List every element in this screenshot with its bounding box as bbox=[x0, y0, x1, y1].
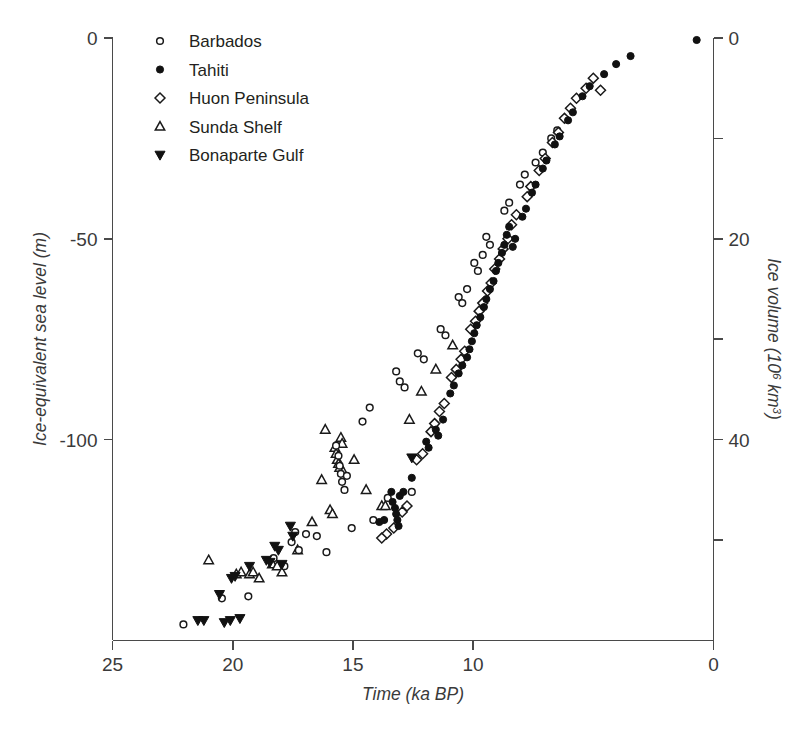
legend-item-tahiti: Tahiti bbox=[156, 61, 228, 80]
marker-circle-filled bbox=[522, 205, 529, 212]
series-barbados bbox=[180, 127, 561, 628]
x-axis-title: Time (ka BP) bbox=[362, 684, 464, 704]
marker-circle-open bbox=[366, 404, 373, 411]
marker-circle-open bbox=[408, 489, 415, 496]
marker-circle-filled bbox=[501, 241, 508, 248]
marker-circle-open bbox=[483, 233, 490, 240]
x-tick-label: 15 bbox=[342, 654, 363, 675]
marker-triangle-up-open bbox=[317, 475, 326, 484]
marker-circle-open bbox=[479, 252, 486, 259]
marker-circle-open bbox=[333, 442, 340, 449]
legend-item-barbados: Barbados bbox=[157, 32, 262, 51]
x-tick-label: 25 bbox=[102, 654, 123, 675]
marker-circle-open bbox=[464, 286, 471, 293]
chart-legend: BarbadosTahitiHuon PeninsulaSunda ShelfB… bbox=[155, 32, 310, 165]
y-right-tick-label: 20 bbox=[729, 229, 750, 250]
marker-circle-open bbox=[521, 171, 528, 178]
legend-item-label: Huon Peninsula bbox=[189, 89, 310, 108]
y-right-axis-title: Ice volume (106 km3) bbox=[764, 258, 784, 420]
marker-circle-open bbox=[348, 525, 355, 532]
marker-circle-open bbox=[157, 38, 164, 45]
marker-circle-filled bbox=[439, 416, 446, 423]
marker-diamond-open bbox=[155, 93, 165, 103]
x-axis-ticks: 252015100 bbox=[102, 641, 719, 675]
marker-circle-filled bbox=[459, 362, 466, 369]
marker-circle-filled bbox=[613, 61, 620, 68]
marker-diamond-open bbox=[588, 73, 598, 83]
marker-circle-filled bbox=[519, 213, 526, 220]
marker-triangle-down-filled bbox=[235, 615, 245, 624]
marker-circle-filled bbox=[477, 314, 484, 321]
marker-circle-filled bbox=[450, 382, 457, 389]
marker-circle-open bbox=[442, 332, 449, 339]
marker-circle-filled bbox=[471, 330, 478, 337]
series-huon-peninsula bbox=[377, 73, 606, 543]
marker-circle-open bbox=[475, 268, 482, 275]
marker-circle-open bbox=[323, 549, 330, 556]
marker-circle-filled bbox=[551, 141, 558, 148]
marker-circle-open bbox=[303, 531, 310, 538]
marker-circle-filled bbox=[556, 133, 563, 140]
marker-circle-filled bbox=[381, 516, 388, 523]
marker-circle-filled bbox=[490, 277, 497, 284]
marker-circle-open bbox=[359, 418, 366, 425]
marker-circle-open bbox=[459, 300, 466, 307]
x-tick-label: 10 bbox=[463, 654, 484, 675]
marker-circle-filled bbox=[498, 249, 505, 256]
marker-circle-filled bbox=[506, 223, 513, 230]
marker-circle-open bbox=[336, 462, 343, 469]
marker-circle-filled bbox=[528, 189, 535, 196]
marker-triangle-up-open bbox=[448, 340, 457, 349]
marker-circle-open bbox=[335, 452, 342, 459]
marker-circle-filled bbox=[586, 83, 593, 90]
marker-circle-filled bbox=[400, 488, 407, 495]
marker-circle-open bbox=[245, 593, 252, 600]
marker-circle-open bbox=[393, 368, 400, 375]
chart-canvas: 252015100 0-50-100 02040 Time (ka BP) Ic… bbox=[0, 0, 796, 729]
marker-circle-filled bbox=[601, 71, 608, 78]
marker-circle-filled bbox=[492, 267, 499, 274]
y-left-tick-label: -100 bbox=[59, 430, 97, 451]
marker-circle-open bbox=[532, 159, 539, 166]
marker-circle-filled bbox=[156, 66, 163, 73]
legend-item-bonaparte-gulf: Bonaparte Gulf bbox=[155, 146, 304, 165]
marker-circle-open bbox=[313, 533, 320, 540]
marker-circle-open bbox=[339, 478, 346, 485]
marker-circle-open bbox=[341, 487, 348, 494]
legend-item-label: Bonaparte Gulf bbox=[189, 146, 304, 165]
marker-circle-filled bbox=[466, 346, 473, 353]
marker-triangle-up-open bbox=[405, 415, 414, 424]
marker-circle-filled bbox=[464, 354, 471, 361]
marker-circle-filled bbox=[512, 235, 519, 242]
legend-item-huon-peninsula: Huon Peninsula bbox=[155, 89, 310, 108]
marker-triangle-up-open bbox=[321, 425, 330, 434]
marker-circle-filled bbox=[564, 117, 571, 124]
marker-triangle-up-open bbox=[417, 386, 426, 395]
marker-circle-open bbox=[487, 242, 494, 249]
marker-circle-filled bbox=[425, 444, 432, 451]
marker-circle-open bbox=[437, 326, 444, 333]
marker-triangle-up-open bbox=[349, 455, 358, 464]
marker-circle-filled bbox=[435, 432, 442, 439]
legend-item-label: Barbados bbox=[189, 32, 262, 51]
sea-level-chart-figure: 252015100 0-50-100 02040 Time (ka BP) Ic… bbox=[0, 0, 796, 729]
y-left-axis-title: Ice-equivalent sea level (m) bbox=[30, 232, 50, 446]
marker-circle-open bbox=[506, 199, 513, 206]
y-left-tick-label: -50 bbox=[70, 229, 97, 250]
legend-item-sunda-shelf: Sunda Shelf bbox=[155, 118, 282, 137]
marker-circle-filled bbox=[480, 304, 487, 311]
y-right-tick-label: 0 bbox=[729, 28, 740, 49]
marker-circle-filled bbox=[532, 181, 539, 188]
y-left-axis-ticks: 0-50-100 bbox=[59, 28, 112, 451]
marker-circle-filled bbox=[569, 109, 576, 116]
x-tick-label: 20 bbox=[222, 654, 243, 675]
marker-circle-open bbox=[401, 384, 408, 391]
marker-circle-filled bbox=[627, 53, 634, 60]
marker-circle-open bbox=[295, 547, 302, 554]
marker-circle-filled bbox=[509, 243, 516, 250]
marker-diamond-open bbox=[596, 85, 606, 95]
marker-triangle-up-open bbox=[307, 517, 316, 526]
marker-circle-open bbox=[420, 356, 427, 363]
marker-circle-filled bbox=[483, 296, 490, 303]
legend-item-label: Tahiti bbox=[189, 61, 229, 80]
